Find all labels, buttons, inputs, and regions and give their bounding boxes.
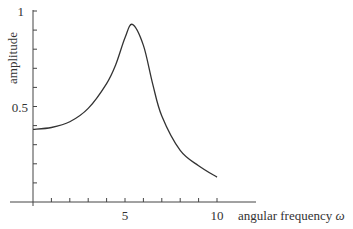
x-axis-label-text: angular frequency [238, 208, 335, 223]
chart: 1 0.5 5 10 amplitude angular frequency ω [0, 0, 353, 229]
x-tick-label-5: 5 [122, 208, 129, 223]
y-tick-label-0-5: 0.5 [12, 100, 28, 115]
x-tick-label-10: 10 [211, 208, 224, 223]
omega-symbol: ω [335, 208, 344, 223]
x-axis-label: angular frequency ω [238, 208, 345, 223]
y-tick-label-1: 1 [18, 4, 25, 19]
x-ticks [51, 198, 217, 202]
amplitude-curve [33, 24, 217, 177]
y-axis-label: amplitude [5, 32, 20, 84]
y-ticks [33, 11, 37, 183]
axes [10, 10, 256, 206]
